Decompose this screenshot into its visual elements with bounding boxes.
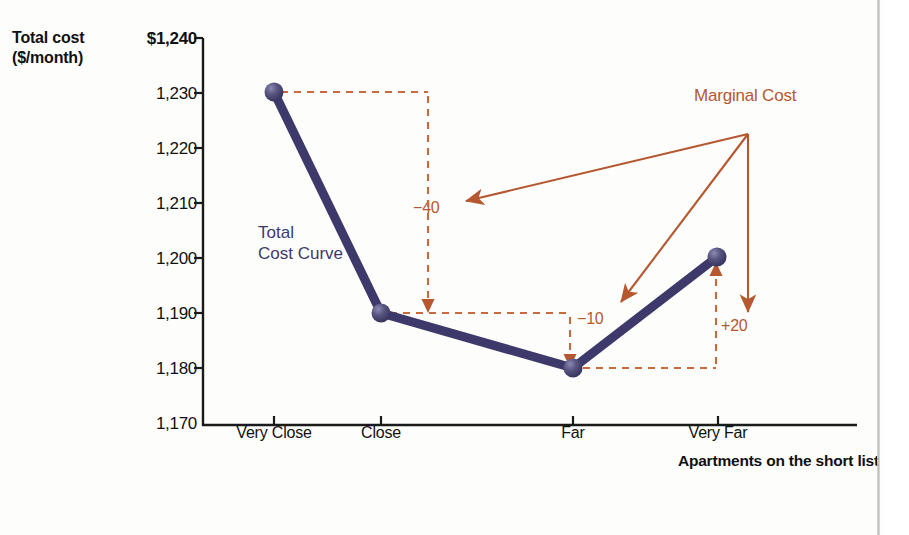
x-axis-ticks bbox=[274, 416, 718, 425]
page-margin bbox=[884, 0, 909, 535]
data-point-very-far bbox=[708, 248, 727, 267]
chart-graphics bbox=[0, 0, 909, 535]
data-point-far bbox=[564, 359, 583, 378]
total-cost-curve bbox=[274, 92, 717, 368]
guide-arrowheads bbox=[422, 262, 723, 368]
data-point-close bbox=[372, 304, 391, 323]
data-point-very-close bbox=[265, 83, 284, 102]
data-point-markers bbox=[265, 83, 727, 378]
chart-canvas: Total cost ($/month) $1,240 1,230 1,220 … bbox=[0, 0, 909, 535]
y-axis-ticks bbox=[194, 38, 203, 368]
marginal-cost-leader-arrows bbox=[466, 134, 748, 312]
page-edge-artifact bbox=[877, 0, 880, 535]
guide-lines bbox=[281, 92, 716, 368]
axis-lines bbox=[194, 38, 857, 425]
